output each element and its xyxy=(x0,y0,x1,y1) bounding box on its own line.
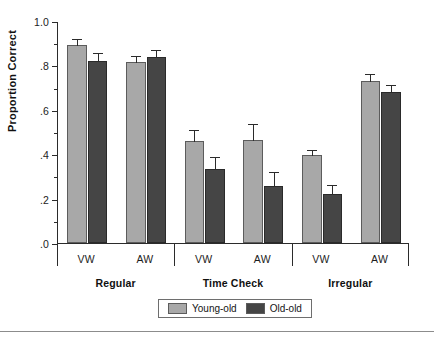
x-sub-label-aw-3: AW xyxy=(254,253,271,265)
x-sub-label-vw-2: VW xyxy=(195,253,213,265)
error-bar-cap xyxy=(365,74,375,75)
legend-item-young-old: Young-old xyxy=(168,303,237,314)
y-tick-label: .6 xyxy=(40,105,49,117)
bar-old-old-aw-1 xyxy=(147,57,167,243)
x-sub-label-aw-1: AW xyxy=(136,253,153,265)
error-bar-cap xyxy=(210,157,220,158)
x-sub-label-aw-5: AW xyxy=(371,253,388,265)
legend: Young-oldOld-old xyxy=(158,299,312,318)
bar-young-old-aw-5 xyxy=(361,81,381,243)
bar-old-old-vw-2 xyxy=(205,169,225,243)
error-bar-cap xyxy=(151,50,161,51)
bar-old-old-aw-5 xyxy=(381,92,401,243)
bar-old-old-vw-0 xyxy=(88,61,108,243)
x-group-label-regular: Regular xyxy=(95,277,136,289)
error-bar-cap xyxy=(189,130,199,131)
plot-area: 1.0.8.6.4.2.0 xyxy=(57,22,409,244)
y-axis-title: Proportion Correct xyxy=(6,30,18,132)
error-bar-stem xyxy=(215,157,216,169)
x-group-label-time-check: Time Check xyxy=(203,277,264,289)
error-bar-cap xyxy=(131,56,141,57)
y-tick-label: .8 xyxy=(40,60,49,72)
bottom-divider xyxy=(0,331,434,332)
error-bar-cap xyxy=(93,53,103,54)
error-bar-stem xyxy=(98,53,99,62)
bars-layer xyxy=(58,22,409,243)
error-bar-stem xyxy=(370,74,371,82)
legend-label: Young-old xyxy=(192,303,237,314)
error-bar-cap xyxy=(327,185,337,186)
bar-young-old-vw-0 xyxy=(67,45,87,243)
legend-swatch-icon xyxy=(246,303,265,314)
y-tick-label: .2 xyxy=(40,194,49,206)
error-bar-stem xyxy=(391,85,392,93)
bar-young-old-aw-1 xyxy=(126,62,146,243)
x-group-divider xyxy=(408,244,409,266)
error-bar-stem xyxy=(274,172,275,188)
error-bar-cap xyxy=(248,124,258,125)
x-sub-label-vw-0: VW xyxy=(78,253,96,265)
error-bar-cap xyxy=(307,150,317,151)
error-bar-stem xyxy=(253,124,254,141)
legend-label: Old-old xyxy=(270,303,302,314)
bar-old-old-vw-4 xyxy=(323,194,343,243)
legend-swatch-icon xyxy=(168,303,187,314)
bar-young-old-aw-3 xyxy=(243,140,263,243)
error-bar-stem xyxy=(194,130,195,142)
x-group-label-irregular: Irregular xyxy=(328,277,372,289)
x-axis-band: VWAWVWAWVWAWRegularTime CheckIrregular xyxy=(57,244,409,266)
error-bar-cap xyxy=(269,172,279,173)
x-group-divider xyxy=(292,244,293,266)
bar-old-old-aw-3 xyxy=(264,186,284,243)
x-sub-label-vw-4: VW xyxy=(312,253,330,265)
error-bar-cap xyxy=(72,39,82,40)
x-group-divider xyxy=(57,244,58,266)
figure-canvas: Proportion Correct 1.0.8.6.4.2.0 VWAWVWA… xyxy=(0,0,434,340)
error-bar-stem xyxy=(156,50,157,58)
y-tick-label: 1.0 xyxy=(34,16,49,28)
error-bar-stem xyxy=(77,39,78,47)
error-bar-stem xyxy=(332,185,333,195)
x-group-divider xyxy=(174,244,175,266)
y-tick-label: .0 xyxy=(40,238,49,250)
legend-item-old-old: Old-old xyxy=(246,303,302,314)
y-tick-label: .4 xyxy=(40,149,49,161)
bar-young-old-vw-4 xyxy=(302,155,322,243)
bar-young-old-vw-2 xyxy=(185,141,205,243)
error-bar-cap xyxy=(386,85,396,86)
